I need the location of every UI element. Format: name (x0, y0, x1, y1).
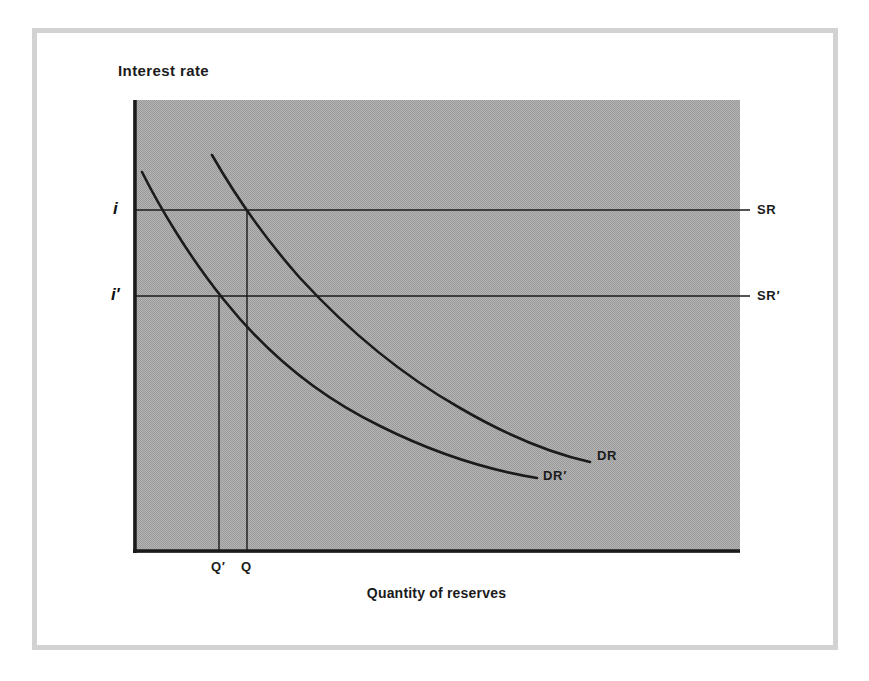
demand-curve-dr-prime-label-mark: ′ (563, 469, 566, 483)
y-tick-label-i: i (113, 199, 118, 219)
x-axis-title: Quantity of reserves (133, 585, 740, 601)
x-tick-label-q: Q (241, 559, 251, 574)
x-tick-label-q-prime-mark: ′ (221, 560, 224, 574)
y-tick-label-i-prime-mark: ′ (116, 285, 120, 303)
x-tick-label-q-prime: Q′ (211, 559, 224, 574)
y-tick-label-i-prime: i′ (111, 285, 120, 305)
chart-canvas (0, 0, 869, 681)
supply-line-sr-prime-label-mark: ′ (776, 289, 779, 303)
demand-curve-dr-prime-label: DR′ (543, 468, 566, 483)
demand-curve-dr-prime-label-text: DR (543, 468, 563, 483)
supply-line-sr-prime-label-text: SR (757, 288, 776, 303)
y-axis-title: Interest rate (118, 62, 209, 79)
supply-line-sr-label: SR (757, 202, 776, 217)
plot-area-background (133, 100, 740, 553)
supply-line-sr-prime-label: SR′ (757, 288, 780, 303)
x-tick-label-q-prime-text: Q (211, 559, 221, 574)
demand-curve-dr-label: DR (597, 448, 617, 463)
figure-root: Interest rate i i′ SR SR′ DR DR′ Q′ Q Qu… (0, 0, 869, 681)
